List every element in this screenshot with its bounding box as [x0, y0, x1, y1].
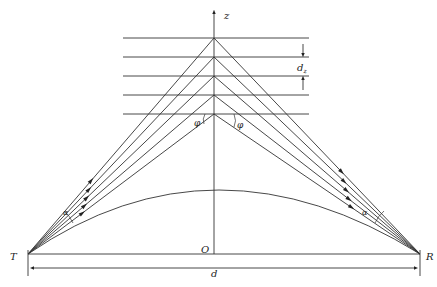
receiver-label: R	[425, 251, 434, 262]
distance-label: d	[211, 268, 217, 279]
phi-arc-right	[234, 114, 236, 127]
layer-lines	[123, 38, 309, 114]
ionosphere-reflection-diagram: z d T R O dz φ φ α α	[0, 0, 437, 287]
transmitter-label: T	[10, 251, 18, 262]
layer-spacing-label: dz	[297, 62, 307, 74]
ray-path	[28, 114, 420, 254]
alpha-label-left: α	[63, 208, 69, 217]
ray-path	[28, 38, 420, 254]
ray-arrow-icon	[79, 211, 85, 216]
alpha-label-right: α	[362, 208, 368, 217]
phi-label-left: φ	[194, 118, 201, 128]
z-axis-label: z	[223, 10, 230, 21]
phi-label-right: φ	[237, 120, 244, 130]
phi-arc-left	[203, 114, 205, 124]
ray-paths	[28, 38, 420, 254]
origin-label: O	[201, 244, 209, 255]
ray-path	[28, 95, 420, 254]
ray-arrow-icon	[348, 204, 354, 209]
ray-path	[28, 57, 420, 254]
